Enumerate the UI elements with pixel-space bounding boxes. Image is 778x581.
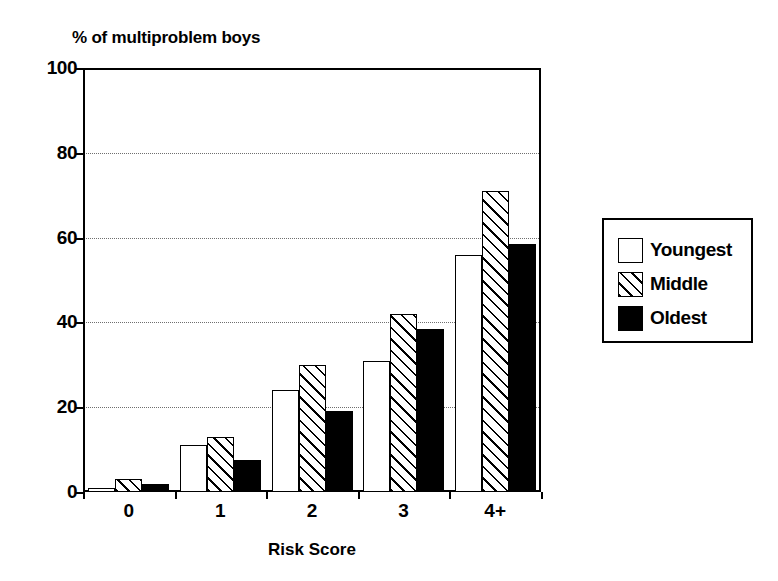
legend-item-oldest[interactable]: Oldest (618, 301, 751, 335)
y-axis-tick (76, 238, 83, 240)
legend-item-middle[interactable]: Middle (618, 267, 751, 301)
x-axis-label: 4+ (465, 500, 525, 522)
bar-chart-figure: % of multiproblem boys 02040608010001234… (0, 0, 778, 581)
bar-oldest-0 (142, 484, 169, 492)
bar-youngest-0 (88, 488, 115, 492)
bar-oldest-4plus (509, 244, 536, 492)
y-axis-label: 20 (17, 396, 77, 418)
y-axis-label: 100 (17, 57, 77, 79)
y-axis-label: 0 (17, 481, 77, 503)
y-axis-tick (76, 153, 83, 155)
bar-youngest-3 (363, 361, 390, 492)
bar-oldest-3 (417, 329, 444, 492)
x-axis-tick (175, 492, 177, 499)
x-axis-tick (358, 492, 360, 499)
y-axis-title: % of multiproblem boys (72, 28, 260, 48)
y-axis-tick (76, 322, 83, 324)
x-axis-label: 2 (282, 500, 342, 522)
legend-label: Oldest (650, 307, 707, 329)
legend-item-youngest[interactable]: Youngest (618, 233, 751, 267)
y-axis-label: 60 (17, 227, 77, 249)
legend-label: Middle (650, 273, 708, 295)
bar-oldest-1 (234, 460, 261, 492)
legend-swatch-middle-icon (618, 272, 643, 297)
bar-middle-1 (207, 437, 234, 492)
x-axis-title: Risk Score (83, 540, 541, 560)
y-axis-tick (76, 68, 83, 70)
x-axis-tick (266, 492, 268, 499)
bar-middle-3 (390, 314, 417, 492)
bar-middle-0 (115, 479, 142, 492)
x-axis-label: 3 (374, 500, 434, 522)
legend-swatch-youngest-icon (618, 238, 643, 263)
x-axis-tick (83, 492, 85, 499)
bar-youngest-2 (272, 390, 299, 492)
y-axis-label: 80 (17, 142, 77, 164)
bar-youngest-4plus (455, 255, 482, 492)
bar-middle-2 (299, 365, 326, 492)
legend-label: Youngest (650, 239, 732, 261)
y-axis-label: 40 (17, 311, 77, 333)
bar-youngest-1 (180, 445, 207, 492)
x-axis-tick (541, 492, 543, 499)
y-axis-tick (76, 407, 83, 409)
bar-oldest-2 (326, 411, 353, 492)
y-axis-tick (76, 492, 83, 494)
x-axis-label: 1 (190, 500, 250, 522)
bar-middle-4plus (482, 191, 509, 492)
x-axis-tick (449, 492, 451, 499)
x-axis-label: 0 (99, 500, 159, 522)
legend-swatch-oldest-icon (618, 306, 643, 331)
chart-legend: YoungestMiddleOldest (602, 218, 753, 343)
